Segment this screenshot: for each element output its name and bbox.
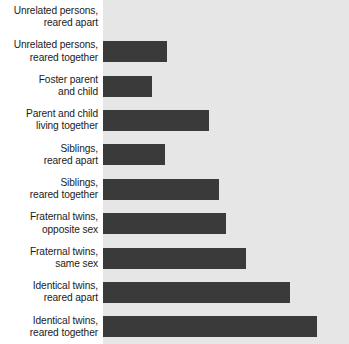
bar-identical-twins-reared-apart bbox=[103, 282, 290, 303]
category-label: Fraternal twins, same sex bbox=[30, 246, 98, 270]
category-label: Siblings, reared apart bbox=[44, 143, 98, 167]
category-label-row: Identical twins, reared apart bbox=[0, 275, 103, 309]
horizontal-bar-chart: Unrelated persons, reared apart Unrelate… bbox=[0, 0, 349, 344]
category-label-row: Unrelated persons, reared apart bbox=[0, 0, 103, 34]
category-label-row: Fraternal twins, opposite sex bbox=[0, 206, 103, 240]
chart-page: Unrelated persons, reared apart Unrelate… bbox=[0, 0, 349, 344]
category-label: Unrelated persons, reared apart bbox=[14, 5, 98, 29]
bar-row bbox=[103, 275, 349, 309]
category-label: Parent and child living together bbox=[26, 108, 98, 132]
bar-row bbox=[103, 138, 349, 172]
bar-row bbox=[103, 34, 349, 68]
category-label: Siblings, reared together bbox=[30, 177, 98, 201]
category-label-row: Fraternal twins, same sex bbox=[0, 241, 103, 275]
bar-siblings-reared-apart bbox=[103, 144, 165, 165]
bar-foster-parent-and-child bbox=[103, 76, 152, 97]
category-label: Identical twins, reared together bbox=[30, 315, 98, 339]
bar-parent-and-child-living-together bbox=[103, 110, 209, 131]
category-label-row: Identical twins, reared together bbox=[0, 310, 103, 344]
category-label-row: Foster parent and child bbox=[0, 69, 103, 103]
bar-row bbox=[103, 241, 349, 275]
category-label: Foster parent and child bbox=[39, 74, 98, 98]
category-label: Identical twins, reared apart bbox=[33, 280, 98, 304]
bar-row bbox=[103, 310, 349, 344]
bar-fraternal-twins-opposite-sex bbox=[103, 213, 226, 234]
category-label-row: Siblings, reared together bbox=[0, 172, 103, 206]
bar-unrelated-persons-reared-together bbox=[103, 41, 167, 62]
bar-row bbox=[103, 172, 349, 206]
category-label: Fraternal twins, opposite sex bbox=[30, 211, 98, 235]
category-axis-labels: Unrelated persons, reared apart Unrelate… bbox=[0, 0, 103, 344]
bar-fraternal-twins-same-sex bbox=[103, 248, 246, 269]
bar-siblings-reared-together bbox=[103, 179, 219, 200]
bar-row bbox=[103, 69, 349, 103]
category-label-row: Siblings, reared apart bbox=[0, 138, 103, 172]
category-label-row: Parent and child living together bbox=[0, 103, 103, 137]
plot-area bbox=[103, 0, 349, 344]
bar-row bbox=[103, 0, 349, 34]
bar-identical-twins-reared-together bbox=[103, 316, 317, 337]
category-label: Unrelated persons, reared together bbox=[14, 39, 98, 63]
category-label-row: Unrelated persons, reared together bbox=[0, 34, 103, 68]
bar-row bbox=[103, 103, 349, 137]
bar-row bbox=[103, 206, 349, 240]
